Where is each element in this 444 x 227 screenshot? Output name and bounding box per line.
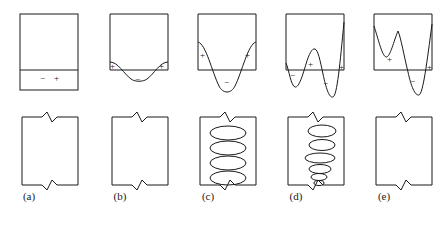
panel-b-bottom: [112, 112, 168, 190]
panel-d-bottom: [288, 112, 344, 190]
panel-c-sign-plus-left: +: [200, 50, 205, 60]
panel-d-box-open: [286, 14, 344, 70]
panel-e-box-open: [374, 14, 432, 70]
panel-a-sign-minus: −: [40, 73, 45, 83]
panel-d-sign-minus-right: −: [323, 78, 328, 88]
panel-c-nodal-ellipse: [210, 156, 246, 170]
panel-c-sign-minus-center: −: [224, 77, 229, 87]
panel-b-sign-plus-right: +: [159, 61, 164, 71]
panel-e-notched-rect: [376, 112, 432, 190]
panel-e-bottom: [376, 112, 432, 190]
panel-e-curve: [374, 24, 432, 95]
panel-d-curve: [286, 22, 344, 97]
panel-c-nodal-ellipse: [210, 141, 246, 155]
panel-e-sign-plus-left: +: [387, 54, 392, 64]
panel-label-b: (b): [100, 190, 140, 202]
panel-b-notched-rect: [112, 112, 168, 190]
panel-d-nodal-ellipse: [311, 174, 327, 181]
panel-a-sign-plus: +: [54, 73, 59, 83]
panel-d-nodal-ellipse: [305, 153, 335, 163]
panel-d-top: − + − +: [286, 14, 344, 97]
panel-c-notched-rect: [200, 112, 256, 190]
panel-c-box-open: [198, 14, 256, 70]
panel-label-e: (e): [364, 190, 404, 202]
panel-a-top: − +: [20, 14, 78, 90]
panel-d-sign-plus-center: +: [308, 59, 313, 69]
panel-b-top: + − +: [110, 14, 168, 84]
panel-b-sign-minus-center: −: [135, 74, 140, 84]
panel-d-nodal-ellipse: [309, 165, 331, 174]
panel-label-d: (d): [276, 190, 316, 202]
panel-b-sign-plus-left: +: [110, 61, 115, 71]
panel-a-notched-rect: [22, 112, 78, 190]
panel-a-box: [20, 14, 78, 90]
panel-d-nodal-ellipse: [309, 140, 335, 151]
panel-d-sign-plus-edge: +: [339, 62, 344, 72]
panel-c-bottom: [200, 112, 256, 190]
panel-d-nodal-ellipse: [308, 125, 336, 137]
panel-e-top: + − +: [374, 14, 432, 95]
panel-c-sign-plus-right: +: [245, 50, 250, 60]
panel-d-notched-rect: [288, 112, 344, 190]
panel-label-a: (a): [9, 190, 49, 202]
panel-c-top: + − +: [198, 14, 256, 92]
panel-label-c: (c): [188, 190, 228, 202]
panel-d-sign-minus-left: −: [290, 70, 295, 80]
panel-e-sign-plus-edge: +: [427, 62, 432, 72]
panel-a-bottom: [22, 112, 78, 190]
panel-c-nodal-ellipse: [210, 126, 246, 140]
panel-e-sign-minus-trough: −: [410, 76, 415, 86]
mode-shape-figure: − + + − + + − +: [0, 0, 444, 227]
